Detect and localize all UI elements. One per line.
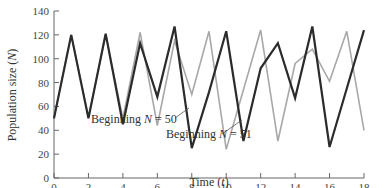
y-tick-label: 140 <box>33 5 50 17</box>
y-tick-label: 0 <box>44 172 50 184</box>
population-chart: 020406080100120140 024681012141618 Begin… <box>0 0 388 188</box>
y-tick-label: 40 <box>38 124 50 136</box>
y-axis: 020406080100120140 <box>33 5 60 184</box>
annotations: Beginning N = 50Beginning N = 51 <box>91 108 252 141</box>
x-tick-label: 6 <box>155 181 161 188</box>
y-tick-label: 80 <box>38 77 50 89</box>
x-tick-label: 12 <box>255 181 266 188</box>
annotation-n51: Beginning N = 51 <box>166 127 252 141</box>
annotation-n50: Beginning N = 50 <box>91 112 177 126</box>
y-axis-title: Population size (N) <box>5 49 19 142</box>
x-tick-label: 2 <box>86 181 92 188</box>
x-tick-label: 18 <box>359 181 371 188</box>
x-tick-label: 14 <box>290 181 302 188</box>
y-tick-label: 100 <box>33 53 50 65</box>
y-tick-label: 120 <box>33 29 50 41</box>
x-axis-title: Time (t) <box>189 175 228 188</box>
y-tick-label: 60 <box>38 100 50 112</box>
y-tick-label: 20 <box>38 148 50 160</box>
x-tick-label: 16 <box>324 181 336 188</box>
x-tick-label: 0 <box>51 181 57 188</box>
x-tick-label: 4 <box>120 181 126 188</box>
